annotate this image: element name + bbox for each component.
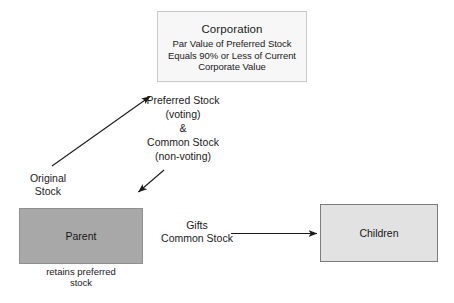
label-gifts-common-stock: Gifts Common Stock	[152, 219, 242, 245]
node-corporation: Corporation Par Value of Preferred Stock…	[157, 11, 307, 82]
label-parent-footnote: retains preferred stock	[31, 266, 131, 288]
label-stock-terms: Preferred Stock (voting) & Common Stock …	[118, 93, 248, 163]
diagram-canvas: Corporation Par Value of Preferred Stock…	[0, 0, 454, 303]
corporation-detail: Par Value of Preferred Stock Equals 90% …	[158, 38, 306, 73]
arrow-corporation-to-parent	[139, 170, 165, 192]
children-label: Children	[359, 227, 398, 239]
corporation-title: Corporation	[201, 22, 262, 36]
parent-label: Parent	[66, 230, 97, 242]
label-original-stock: Original Stock	[8, 172, 88, 198]
node-children: Children	[320, 204, 438, 262]
node-parent: Parent	[19, 208, 143, 264]
